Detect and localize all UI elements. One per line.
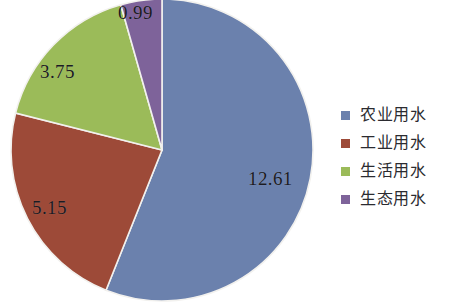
legend-item-domestic[interactable]: 生活用水 [341, 157, 454, 185]
legend-label-industrial: 工业用水 [360, 135, 426, 151]
legend-swatch-agricultural [341, 111, 350, 120]
slice-label-industrial: 5.15 [32, 197, 67, 219]
legend-label-ecological: 生态用水 [360, 191, 426, 207]
legend-swatch-domestic [341, 167, 350, 176]
legend-label-agricultural: 农业用水 [360, 107, 426, 123]
legend-item-ecological[interactable]: 生态用水 [341, 185, 454, 213]
legend-item-agricultural[interactable]: 农业用水 [341, 101, 454, 129]
legend-swatch-industrial [341, 139, 350, 148]
legend-label-domestic: 生活用水 [360, 163, 426, 179]
pie-chart: 12.61 5.15 3.75 0.99 农业用水 工业用水 生活用水 生态用水 [0, 0, 454, 303]
legend-item-industrial[interactable]: 工业用水 [341, 129, 454, 157]
slice-label-ecological: 0.99 [118, 2, 153, 24]
pie-plot-area: 12.61 5.15 3.75 0.99 [0, 0, 330, 303]
pie-svg [0, 0, 330, 303]
pie-slice-group [11, 0, 313, 301]
legend-swatch-ecological [341, 195, 350, 204]
chart-legend: 农业用水 工业用水 生活用水 生态用水 [341, 101, 454, 213]
slice-label-agricultural: 12.61 [248, 168, 293, 190]
slice-label-domestic: 3.75 [40, 61, 75, 83]
